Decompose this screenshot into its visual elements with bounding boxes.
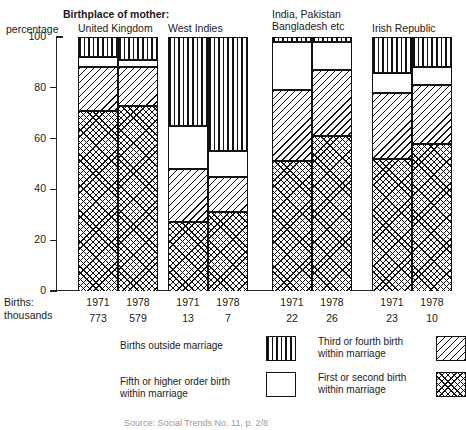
births-value: 773 (76, 312, 120, 324)
births-value: 13 (166, 312, 210, 324)
legend-swatch-3 (436, 372, 466, 397)
y-tick-label-20: 20 (16, 233, 46, 245)
bar-1 (118, 37, 158, 291)
y-tick-60 (50, 138, 57, 139)
bar-7 (412, 37, 452, 291)
x-year-label: 1978 (410, 296, 454, 308)
x-year-label: 1978 (310, 296, 354, 308)
bar-5 (312, 37, 352, 291)
y-axis-line (56, 37, 57, 291)
x-year-label: 1971 (76, 296, 120, 308)
legend-swatch-0 (266, 336, 296, 361)
legend-swatch-2 (266, 372, 296, 397)
bar-segment (412, 67, 452, 85)
group-title-1: West Indies (168, 22, 223, 34)
x-year-label: 1971 (270, 296, 314, 308)
legend-label-line1: First or second birth (318, 372, 406, 384)
bar-segment (412, 37, 452, 67)
births-value: 10 (410, 312, 454, 324)
bar-segment (412, 85, 452, 143)
bar-segment (372, 93, 412, 159)
x-year-label: 1971 (166, 296, 210, 308)
births-value: 7 (206, 312, 250, 324)
group-title-2: India, PakistanBangladesh etc (272, 8, 344, 33)
bar-4 (272, 37, 312, 291)
bar-segment (208, 37, 248, 151)
bar-segment (208, 151, 248, 176)
bar-segment (312, 136, 352, 291)
bar-segment (372, 159, 412, 291)
births-caption-line2: thousands (4, 309, 52, 322)
bar-segment (168, 126, 208, 169)
bar-3 (208, 37, 248, 291)
births-value: 23 (370, 312, 414, 324)
bar-segment (312, 42, 352, 70)
bar-segment (272, 42, 312, 90)
bar-segment (372, 37, 412, 73)
y-tick-100 (56, 36, 63, 37)
bar-6 (372, 37, 412, 291)
bar-segment (168, 169, 208, 222)
bar-2 (168, 37, 208, 291)
births-axis-caption: Births: thousands (4, 296, 52, 322)
y-tick-label-100: 100 (16, 30, 46, 42)
legend-label-1: Third or fourth birthwithin marriage (318, 336, 403, 360)
births-caption-line1: Births: (4, 296, 52, 309)
y-tick-0 (50, 290, 57, 291)
births-value: 22 (270, 312, 314, 324)
x-year-label: 1978 (116, 296, 160, 308)
chart-title: Birthplace of mother: (63, 8, 169, 20)
y-tick-40 (50, 189, 57, 190)
bar-0 (78, 37, 118, 291)
legend-label-2: Fifth or higher order birthwithin marria… (120, 376, 230, 400)
bar-segment (118, 60, 158, 68)
bar-segment (78, 111, 118, 291)
bar-segment (78, 67, 118, 110)
y-tick-label-0: 0 (16, 284, 46, 296)
bar-segment (272, 90, 312, 161)
births-value: 579 (116, 312, 160, 324)
legend-swatch-1 (436, 336, 466, 361)
source-note: Source: Social Trends No. 11, p. 2/8 (124, 418, 268, 428)
legend: Births outside marriageThird or fourth b… (120, 336, 458, 398)
legend-label-line2: within marriage (120, 388, 230, 400)
bar-segment (78, 57, 118, 67)
group-title-line1: India, Pakistan (272, 8, 344, 20)
y-tick-label-80: 80 (16, 81, 46, 93)
bar-segment (118, 37, 158, 60)
bar-segment (78, 37, 118, 57)
group-title-line2: Bangladesh etc (272, 20, 344, 32)
bar-segment (208, 212, 248, 291)
bar-segment (118, 106, 158, 291)
y-tick-label-60: 60 (16, 132, 46, 144)
y-tick-80 (50, 87, 57, 88)
group-title-0: United Kingdom (78, 22, 153, 34)
bar-segment (312, 70, 352, 136)
y-tick-label-40: 40 (16, 182, 46, 194)
x-year-label: 1978 (206, 296, 250, 308)
legend-label-line2: within marriage (318, 384, 406, 396)
bar-segment (168, 37, 208, 126)
y-tick-20 (50, 240, 57, 241)
legend-label-0: Births outside marriage (120, 340, 223, 352)
legend-label-3: First or second birthwithin marriage (318, 372, 406, 396)
bar-segment (412, 144, 452, 291)
legend-label-line1: Fifth or higher order birth (120, 376, 230, 388)
legend-label-line2: within marriage (318, 348, 403, 360)
bar-segment (118, 67, 158, 105)
legend-label-line1: Third or fourth birth (318, 336, 403, 348)
births-value: 26 (310, 312, 354, 324)
x-year-label: 1971 (370, 296, 414, 308)
group-title-3: Irish Republic (372, 22, 436, 34)
bar-segment (372, 73, 412, 93)
bar-segment (272, 161, 312, 291)
bar-segment (168, 222, 208, 291)
legend-label-line1: Births outside marriage (120, 340, 223, 352)
bar-segment (208, 177, 248, 213)
